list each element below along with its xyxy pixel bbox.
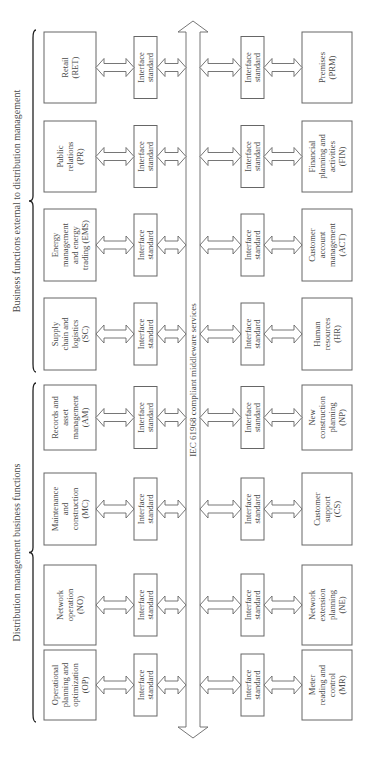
interface-standard-label-line: standard — [252, 319, 262, 349]
interface-standard-label-line: Interface — [136, 494, 146, 525]
interface-standard-label-line: standard — [252, 590, 262, 620]
interface-standard-label-line: standard — [145, 319, 155, 349]
interface-standard-label-line: standard — [145, 52, 155, 82]
bus-to-interface-arrow — [200, 409, 241, 427]
interface-to-bus-arrow — [157, 148, 186, 166]
interface-standard-label-line: Interface — [136, 590, 146, 621]
function-to-interface-arrow — [96, 148, 134, 166]
interface-to-bus-arrow — [157, 596, 186, 614]
interface-standard-label-line: standard — [145, 494, 155, 524]
interface-standard-label-line: standard — [252, 494, 262, 524]
interface-standard-label: Interfacestandard — [136, 141, 156, 172]
bottom-interface-standards: InterfacestandardInterfacestandardInterf… — [241, 37, 264, 717]
distribution-functions-brace — [29, 383, 36, 722]
function-box-top: Publicrelations(PR) — [44, 121, 96, 192]
function-label-line: Meter — [307, 675, 317, 696]
function-label-line: chain and — [60, 317, 70, 351]
top-function-boxes: Retail(RET)Publicrelations(PR)Energymana… — [44, 32, 96, 720]
interface-standard-label-line: standard — [252, 402, 262, 432]
function-label-line: (SC) — [80, 326, 90, 342]
function-label-line: Financial — [307, 140, 317, 173]
function-box-top: Supplychain andlogistics(SC) — [44, 298, 96, 370]
function-to-interface-arrow — [96, 59, 134, 77]
function-label-line: relations — [65, 141, 75, 171]
interface-standard-box: Interfacestandard — [241, 37, 264, 99]
interface-standard-label-line: Interface — [136, 670, 146, 701]
interface-to-function-arrow — [264, 236, 302, 254]
function-label-line: (OP) — [80, 677, 90, 694]
interface-standard-label: Interfacestandard — [136, 402, 156, 433]
function-label-line: trading (EMS) — [80, 220, 90, 270]
function-label-line: management — [60, 222, 70, 267]
function-box-bottom: Customeraccountmanagement(ACT) — [302, 209, 352, 281]
function-label-line: Network — [307, 589, 317, 620]
interface-standard-label-line: standard — [145, 670, 155, 700]
function-label-line: and energy — [70, 225, 80, 263]
bus-to-interface-arrow — [200, 676, 241, 694]
function-label-line: extension — [317, 588, 327, 622]
function-label-line: Maintenance — [50, 487, 60, 532]
function-label-line: optimization — [70, 663, 80, 707]
function-box-top: Records andassetmanagement(AM) — [44, 385, 96, 450]
function-label-line: (RET) — [70, 56, 80, 78]
function-label-line: Records and — [50, 395, 60, 438]
function-box-bottom: Financialplanning andactivities(FIN) — [302, 121, 352, 192]
interface-to-function-arrow — [264, 59, 302, 77]
function-label-line: and — [60, 502, 70, 515]
interface-standard-label: Interfacestandard — [243, 670, 263, 701]
interface-standard-label: Interfacestandard — [136, 52, 156, 83]
function-label-line: (NE) — [337, 596, 347, 613]
interface-standard-label: Interfacestandard — [136, 319, 156, 350]
interface-to-function-arrow — [264, 676, 302, 694]
function-label-line: planning and — [317, 133, 327, 178]
interface-to-function-arrow — [264, 325, 302, 343]
function-box-top: Retail(RET) — [44, 32, 96, 103]
function-label-line: construction — [317, 396, 327, 439]
interface-standard-label: Interfacestandard — [243, 319, 263, 350]
interface-standard-label: Interfacestandard — [243, 52, 263, 83]
function-label: Retail(RET) — [60, 56, 80, 78]
function-label-line: Retail — [60, 57, 70, 78]
interface-standard-box: Interfacestandard — [134, 574, 157, 636]
function-box-bottom: Customersupport(CS) — [302, 473, 352, 545]
interface-standard-box: Interfacestandard — [241, 387, 264, 449]
function-box-top: Energymanagementand energytrading (EMS) — [44, 209, 96, 281]
interface-standard-box: Interfacestandard — [134, 126, 157, 188]
function-label: Premises(PRM) — [317, 51, 337, 83]
function-label-line: planning — [327, 402, 337, 433]
interface-standard-box: Interfacestandard — [134, 478, 157, 540]
interface-standard-label-line: Interface — [243, 402, 253, 433]
interface-standard-label: Interfacestandard — [136, 230, 156, 261]
function-label-line: management — [327, 222, 337, 267]
function-label-line: Public — [55, 145, 65, 167]
external-functions-group-label: Business functions external to distribut… — [11, 90, 22, 313]
interface-to-bus-arrow — [157, 236, 186, 254]
interface-standard-label-line: Interface — [243, 141, 253, 172]
interface-standard-label-line: standard — [145, 590, 155, 620]
interface-to-bus-arrow — [157, 500, 186, 518]
function-label-line: activities — [327, 140, 337, 172]
interface-standard-box: Interfacestandard — [241, 478, 264, 540]
function-label-line: (AM) — [80, 408, 90, 428]
bus-to-interface-arrow — [200, 500, 241, 518]
interface-to-bus-arrow — [157, 409, 186, 427]
function-label-line: Customer — [307, 228, 317, 262]
function-label-line: reading and — [317, 664, 327, 705]
interface-standard-label-line: Interface — [243, 230, 253, 261]
interface-standard-box: Interfacestandard — [134, 387, 157, 449]
interface-standard-label-line: Interface — [136, 141, 146, 172]
function-label-line: (ACT) — [337, 233, 347, 256]
interface-to-function-arrow — [264, 596, 302, 614]
interface-standard-label-line: Interface — [243, 590, 253, 621]
external-functions-brace — [29, 30, 36, 372]
top-interface-standards: InterfacestandardInterfacestandardInterf… — [134, 37, 157, 717]
function-label-line: (NO) — [75, 596, 85, 614]
function-label-line: (CS) — [332, 501, 342, 517]
function-label-line: logistics — [70, 319, 80, 348]
interface-standard-box: Interfacestandard — [241, 214, 264, 276]
interface-standard-label-line: Interface — [243, 319, 253, 350]
function-to-interface-arrow — [96, 325, 134, 343]
bus-to-interface-arrow — [200, 59, 241, 77]
function-label-line: Supply — [50, 321, 60, 346]
interface-standard-label-line: Interface — [136, 52, 146, 83]
